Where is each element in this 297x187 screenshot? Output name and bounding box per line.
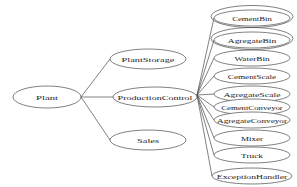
- node-truck[interactable]: Truck: [214, 147, 290, 163]
- node-agregatebin-label: AgregateBin: [228, 37, 277, 45]
- node-plant[interactable]: Plant: [13, 86, 81, 108]
- node-cementbin-label: CementBin: [232, 15, 272, 23]
- node-cementscale-label: CementScale: [228, 73, 276, 81]
- node-agregateconveyor-label: AgregateConveyor: [217, 117, 288, 125]
- node-mixer-label: Mixer: [241, 135, 264, 143]
- edge-productioncontrol-to-agregatescale: [197, 94, 214, 95]
- node-sales[interactable]: Sales: [110, 130, 186, 150]
- edge-productioncontrol-to-exceptionhandler: [197, 95, 212, 176]
- node-plant-label: Plant: [36, 94, 58, 102]
- node-exceptionhandler[interactable]: ExceptionHandler: [212, 168, 292, 184]
- graph-svg: PlantPlantStorageProductionControlSalesC…: [0, 0, 297, 187]
- node-plantstorage-label: PlantStorage: [122, 56, 175, 64]
- node-exceptionhandler-label: ExceptionHandler: [217, 173, 288, 181]
- node-agregatescale-label: AgregateScale: [223, 91, 280, 99]
- edge-plant-to-sales: [81, 97, 110, 140]
- node-mixer[interactable]: Mixer: [214, 130, 290, 146]
- edge-productioncontrol-to-waterbin: [197, 58, 214, 95]
- node-sales-label: Sales: [137, 137, 159, 145]
- node-cementconveyor-label: CementConveyor: [221, 104, 283, 112]
- node-waterbin-label: WaterBin: [234, 55, 270, 63]
- node-productioncontrol-label: ProductionControl: [118, 94, 193, 102]
- node-truck-label: Truck: [241, 152, 264, 160]
- node-cementbin[interactable]: CementBin: [211, 6, 293, 28]
- node-agregatebin[interactable]: AgregateBin: [211, 28, 293, 50]
- edge-productioncontrol-to-agregatebin: [197, 40, 214, 95]
- edge-productioncontrol-to-truck: [197, 95, 214, 155]
- nodes-layer: PlantPlantStorageProductionControlSalesC…: [13, 6, 293, 185]
- edge-productioncontrol-to-cementscale: [197, 76, 214, 95]
- node-productioncontrol[interactable]: ProductionControl: [113, 87, 197, 107]
- node-plantstorage[interactable]: PlantStorage: [110, 49, 186, 69]
- edge-productioncontrol-to-cementbin: [197, 18, 214, 95]
- diagram-canvas: PlantPlantStorageProductionControlSalesC…: [0, 0, 297, 187]
- node-agregateconveyor[interactable]: AgregateConveyor: [214, 112, 290, 128]
- edge-plant-to-plantstorage: [81, 59, 110, 97]
- node-waterbin[interactable]: WaterBin: [214, 50, 290, 66]
- node-cementscale[interactable]: CementScale: [214, 68, 290, 84]
